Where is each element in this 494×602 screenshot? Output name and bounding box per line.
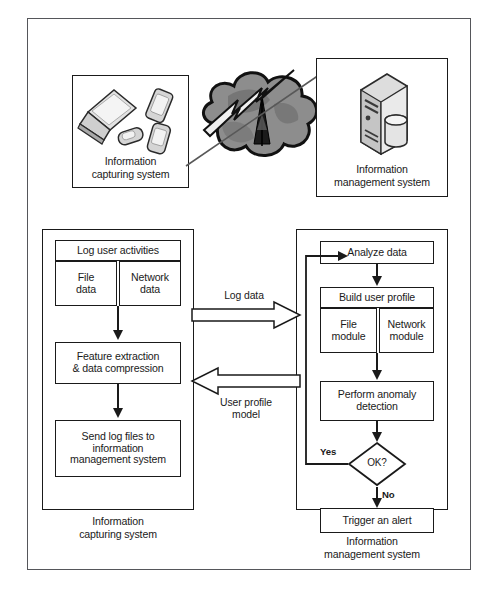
- capture-flow-panel-caption: Information capturing system: [42, 515, 194, 540]
- edge-label-user-profile-line1: User profile: [196, 397, 296, 409]
- node-trigger-alert[interactable]: Trigger an alert: [320, 508, 434, 533]
- tablet-icon: [145, 88, 174, 124]
- management-flow-panel-caption: Information management system: [296, 535, 448, 560]
- node-decision-ok-label: OK?: [347, 457, 407, 468]
- node-network-module-line1: Network: [388, 319, 426, 331]
- management-flow-caption-line2: management system: [296, 548, 448, 561]
- flip-phone-icon: [117, 126, 145, 146]
- node-log-user-activities-label: Log user activities: [77, 245, 159, 257]
- node-file-data-line2: data: [76, 284, 96, 296]
- node-perform-anomaly-line2: detection: [356, 401, 398, 413]
- diagram-canvas: Information capturing system: [0, 0, 494, 602]
- edge-label-log-data: Log data: [196, 290, 292, 302]
- server-artwork: [345, 68, 427, 158]
- node-log-user-activities[interactable]: Log user activities: [55, 240, 181, 261]
- node-analyze-data-label: Analyze data: [347, 247, 406, 259]
- node-file-data-line1: File: [78, 272, 94, 284]
- capture-system-picture-caption: Information capturing system: [72, 155, 189, 180]
- management-flow-caption-line1: Information: [296, 535, 448, 548]
- node-network-module-line2: module: [390, 331, 424, 343]
- management-caption-line2: management system: [316, 176, 448, 189]
- branch-label-yes: Yes: [320, 446, 336, 457]
- capture-caption-line1: Information: [72, 155, 189, 168]
- arrow-log-to-feature: [110, 306, 126, 342]
- database-cylinder-icon: [385, 115, 407, 147]
- block-arrow-user-profile-model: [192, 368, 302, 396]
- management-system-picture-caption: Information management system: [316, 163, 448, 188]
- arrow-analyze-to-build: [369, 264, 385, 287]
- node-file-data[interactable]: File data: [55, 261, 117, 306]
- node-trigger-alert-label: Trigger an alert: [342, 515, 411, 527]
- node-send-log-files-line3: management system: [70, 454, 166, 466]
- edge-label-user-profile-line2: model: [196, 409, 296, 421]
- node-send-log-files[interactable]: Send log files to information management…: [55, 420, 181, 477]
- node-network-module[interactable]: Network module: [379, 308, 434, 353]
- capture-devices-artwork: [74, 78, 188, 158]
- node-network-data-line2: data: [140, 284, 160, 296]
- edge-label-user-profile-model: User profile model: [196, 397, 296, 421]
- block-arrow-log-data: [192, 302, 302, 330]
- smartphone-icon: [146, 122, 171, 155]
- node-network-data-line1: Network: [131, 272, 169, 284]
- node-feature-extraction[interactable]: Feature extraction & data compression: [55, 342, 181, 384]
- arrow-anomaly-to-decision: [369, 421, 385, 443]
- management-caption-line1: Information: [316, 163, 448, 176]
- capture-flow-caption-line2: capturing system: [42, 528, 194, 541]
- capture-caption-line2: capturing system: [72, 168, 189, 181]
- capture-flow-caption-line1: Information: [42, 515, 194, 528]
- node-send-log-files-line1: Send log files to: [82, 431, 155, 443]
- arrow-build-to-anomaly: [369, 353, 385, 381]
- branch-label-no: No: [382, 489, 395, 500]
- node-feature-extraction-line2: & data compression: [73, 363, 164, 375]
- arrow-feature-to-send: [110, 384, 126, 420]
- feedback-loop-yes: [300, 248, 352, 468]
- node-network-data[interactable]: Network data: [119, 261, 181, 306]
